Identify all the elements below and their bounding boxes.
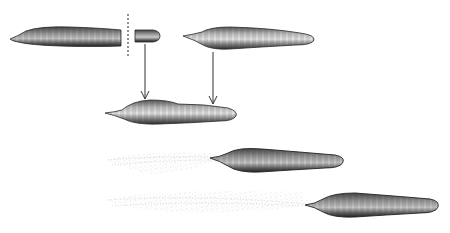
body-right <box>183 27 314 49</box>
body-trail-1 <box>108 149 343 175</box>
illustration-canvas <box>0 0 450 233</box>
body-joined <box>105 100 236 124</box>
small-fragment <box>135 30 160 42</box>
body-trail-2 <box>105 191 438 217</box>
illustration-svg <box>0 0 450 233</box>
arrow-right <box>209 52 217 104</box>
arrow-left <box>141 44 149 99</box>
body-left <box>10 27 121 47</box>
